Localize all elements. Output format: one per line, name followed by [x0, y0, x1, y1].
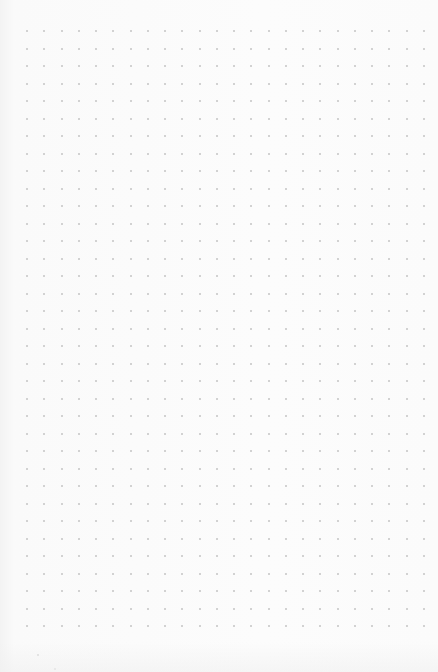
grid-dot	[302, 538, 304, 540]
grid-dot	[147, 188, 149, 190]
grid-dot	[406, 310, 408, 312]
grid-dot	[302, 625, 304, 627]
grid-dot	[354, 100, 356, 102]
grid-dot	[268, 380, 270, 382]
dot-grid-canvas[interactable]	[0, 0, 438, 672]
grid-dot	[371, 293, 373, 295]
grid-dot	[388, 538, 390, 540]
grid-dot	[233, 485, 235, 487]
grid-dot	[78, 65, 80, 67]
grid-dot	[130, 538, 132, 540]
grid-dot	[216, 328, 218, 330]
grid-dot	[423, 118, 425, 120]
grid-dot	[199, 153, 201, 155]
grid-dot	[319, 48, 321, 50]
grid-dot	[164, 188, 166, 190]
grid-dot	[302, 258, 304, 260]
grid-dot	[164, 328, 166, 330]
grid-dot	[112, 503, 114, 505]
grid-dot	[319, 275, 321, 277]
grid-dot	[406, 415, 408, 417]
grid-dot	[388, 590, 390, 592]
grid-dot	[371, 503, 373, 505]
grid-dot	[354, 485, 356, 487]
grid-dot	[61, 468, 63, 470]
grid-dot	[285, 135, 287, 137]
grid-dot	[112, 188, 114, 190]
grid-dot	[95, 223, 97, 225]
grid-dot	[319, 538, 321, 540]
grid-dot	[216, 293, 218, 295]
grid-dot	[423, 433, 425, 435]
grid-dot	[164, 520, 166, 522]
grid-dot	[354, 503, 356, 505]
grid-dot	[199, 345, 201, 347]
grid-dot	[147, 573, 149, 575]
grid-dot	[250, 503, 252, 505]
grid-dot	[285, 205, 287, 207]
grid-dot	[130, 345, 132, 347]
grid-dot	[130, 625, 132, 627]
grid-dot	[147, 380, 149, 382]
grid-dot	[199, 328, 201, 330]
grid-dot	[406, 363, 408, 365]
grid-dot	[302, 188, 304, 190]
grid-dot	[216, 65, 218, 67]
grid-dot	[78, 468, 80, 470]
grid-dot	[337, 380, 339, 382]
grid-dot	[43, 625, 45, 627]
grid-dot	[371, 258, 373, 260]
grid-dot	[26, 188, 28, 190]
grid-dot	[423, 380, 425, 382]
grid-dot	[250, 293, 252, 295]
grid-dot	[233, 223, 235, 225]
grid-dot	[268, 153, 270, 155]
grid-dot	[268, 100, 270, 102]
grid-dot	[423, 345, 425, 347]
grid-dot	[147, 468, 149, 470]
grid-dot	[164, 433, 166, 435]
grid-dot	[78, 275, 80, 277]
grid-dot	[268, 65, 270, 67]
grid-dot	[233, 65, 235, 67]
grid-dot	[319, 118, 321, 120]
grid-dot	[337, 363, 339, 365]
grid-dot	[250, 520, 252, 522]
grid-dot	[43, 275, 45, 277]
grid-dot	[388, 625, 390, 627]
grid-dot	[250, 240, 252, 242]
grid-dot	[233, 100, 235, 102]
grid-dot	[78, 153, 80, 155]
grid-dot	[164, 398, 166, 400]
grid-dot	[388, 485, 390, 487]
grid-dot	[130, 328, 132, 330]
grid-dot	[216, 188, 218, 190]
grid-dot	[78, 205, 80, 207]
grid-dot	[130, 205, 132, 207]
grid-dot	[302, 608, 304, 610]
grid-dot	[78, 363, 80, 365]
grid-dot	[268, 118, 270, 120]
grid-dot	[423, 468, 425, 470]
grid-dot	[250, 205, 252, 207]
grid-dot	[43, 135, 45, 137]
grid-dot	[285, 240, 287, 242]
grid-dot	[26, 135, 28, 137]
grid-dot	[216, 380, 218, 382]
grid-dot	[406, 223, 408, 225]
grid-dot	[216, 240, 218, 242]
grid-dot	[371, 468, 373, 470]
grid-dot	[337, 415, 339, 417]
grid-dot	[95, 153, 97, 155]
grid-dot	[181, 608, 183, 610]
grid-dot	[95, 30, 97, 32]
grid-dot	[164, 415, 166, 417]
grid-dot	[181, 345, 183, 347]
grid-dot	[164, 240, 166, 242]
grid-dot	[250, 608, 252, 610]
grid-dot	[406, 468, 408, 470]
grid-dot	[95, 275, 97, 277]
grid-dot	[371, 415, 373, 417]
grid-dot	[371, 590, 373, 592]
grid-dot	[43, 573, 45, 575]
